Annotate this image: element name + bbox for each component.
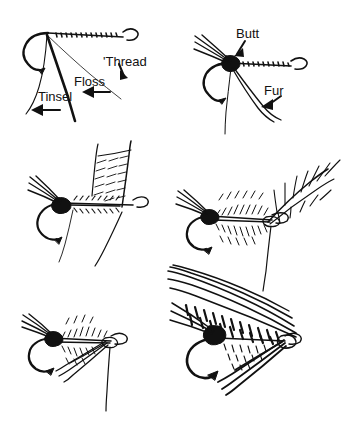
figure-canvas: 'Thread Floss Tinsel xyxy=(0,0,343,440)
label-fur: Fur xyxy=(264,83,284,98)
butt-blob-3 xyxy=(52,198,71,214)
fly-tying-figure: 'Thread Floss Tinsel xyxy=(0,0,343,440)
label-floss: Floss xyxy=(74,74,106,89)
label-tinsel: Tinsel xyxy=(38,89,72,104)
label-butt: Butt xyxy=(236,26,260,41)
label-thread: 'Thread xyxy=(103,54,147,69)
